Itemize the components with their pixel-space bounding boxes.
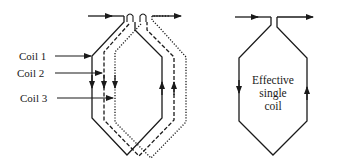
effective-label-line-3: coil <box>264 100 281 112</box>
coil-diagram: Coil 1 Coil 2 Coil 3 Effective single co… <box>0 0 337 167</box>
effective-label-line-2: single <box>259 87 286 100</box>
coil-3-path <box>115 20 186 158</box>
coil-2-label: Coil 2 <box>17 67 44 79</box>
coil-2-path <box>104 22 174 156</box>
coil-1-path <box>92 16 162 155</box>
output-lead-arrow-icon <box>152 16 181 20</box>
coil-group-left <box>55 14 186 158</box>
coil-1-top-loop <box>127 14 133 22</box>
coil-3-label: Coil 3 <box>20 92 48 104</box>
effective-label-line-1: Effective <box>252 74 294 86</box>
effective-coil-path <box>239 17 307 155</box>
coil-2-top-loop <box>140 14 146 22</box>
coil-1-label: Coil 1 <box>19 50 46 62</box>
effective-coil <box>235 17 313 155</box>
